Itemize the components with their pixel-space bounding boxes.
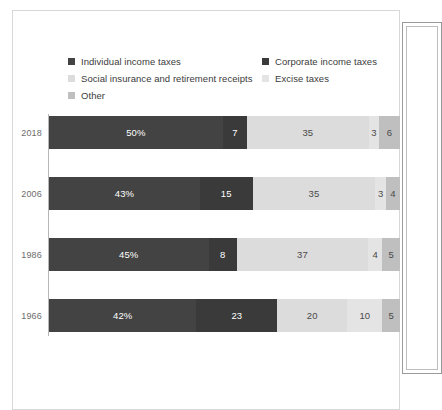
bar-segment[interactable]: 4 [386,177,400,210]
bar-segment-value-label: 3 [371,128,376,138]
bar-segment-value-label: 5 [388,311,393,321]
legend-item-label: Other [81,90,105,101]
y-axis-tick-label: 1966 [12,299,42,332]
bar-segment-value-label: 15 [221,189,232,199]
adjacent-panel [402,22,442,374]
stacked-bar[interactable]: 42%2320105 [49,299,400,332]
bar-segment[interactable]: 23 [196,299,277,332]
bar-segment[interactable]: 35 [247,116,369,149]
bar-segment-value-label: 4 [372,250,377,260]
bar-segment[interactable]: 5 [382,238,400,271]
bar-segment[interactable]: 15 [200,177,253,210]
bar-segment[interactable]: 20 [277,299,347,332]
legend-swatch-icon [68,75,75,82]
bar-segment[interactable]: 4 [368,238,382,271]
bar-segment[interactable]: 50% [49,116,223,149]
legend-item-label: Individual income taxes [81,56,181,67]
legend-item-label: Social insurance and retirement receipts [81,73,253,84]
bar-segment-value-label: 50% [126,128,145,138]
legend-item-label: Corporate income taxes [275,56,377,67]
legend-item-other[interactable]: Other [68,90,105,101]
adjacent-panel-inner [406,26,438,370]
bar-segment[interactable]: 35 [253,177,376,210]
legend-swatch-icon [262,58,269,65]
legend-item-excise-taxes[interactable]: Excise taxes [262,73,329,84]
bar-row: 1966 42%2320105 [12,299,400,332]
bar-segment[interactable]: 6 [379,116,400,149]
bar-segment-value-label: 37 [297,250,308,260]
legend-swatch-icon [68,58,75,65]
plot-area: 2018 50%73536 2006 43%153534 1986 45%837… [12,114,400,336]
bar-segment-value-label: 10 [359,311,370,321]
bar-segment[interactable]: 37 [237,238,368,271]
bar-segment[interactable]: 42% [49,299,196,332]
bar-segment-value-label: 6 [387,128,392,138]
bar-segment-value-label: 4 [390,189,395,199]
y-axis-tick-label: 1986 [12,238,42,271]
bar-segment-value-label: 45% [119,250,138,260]
bar-segment-value-label: 23 [231,311,242,321]
bar-segment-value-label: 42% [113,311,132,321]
stacked-bar[interactable]: 45%83745 [49,238,400,271]
legend-item-social-insurance-and-retirement-receipts[interactable]: Social insurance and retirement receipts [68,73,253,84]
bar-segment[interactable]: 8 [209,238,237,271]
bar-segment[interactable]: 3 [375,177,386,210]
chart-legend: Individual income taxes Corporate income… [56,56,400,108]
y-axis-tick-label: 2018 [12,116,42,149]
bar-segment[interactable]: 45% [49,238,209,271]
legend-item-corporate-income-taxes[interactable]: Corporate income taxes [262,56,377,67]
legend-swatch-icon [68,92,75,99]
bar-segment-value-label: 35 [309,189,320,199]
stacked-bar[interactable]: 43%153534 [49,177,400,210]
bar-segment-value-label: 3 [378,189,383,199]
bar-segment[interactable]: 5 [382,299,400,332]
bar-segment[interactable]: 43% [49,177,200,210]
bar-segment-value-label: 7 [232,128,237,138]
bar-row: 1986 45%83745 [12,238,400,271]
bar-segment-value-label: 8 [220,250,225,260]
bar-row: 2018 50%73536 [12,116,400,149]
bar-segment-value-label: 20 [307,311,318,321]
bar-segment-value-label: 43% [115,189,134,199]
bar-segment[interactable]: 7 [223,116,247,149]
legend-item-individual-income-taxes[interactable]: Individual income taxes [68,56,181,67]
bar-segment-value-label: 5 [388,250,393,260]
bar-segment-value-label: 35 [302,128,313,138]
y-axis-tick-label: 2006 [12,177,42,210]
bar-segment[interactable]: 3 [369,116,379,149]
stacked-bar[interactable]: 50%73536 [49,116,400,149]
legend-swatch-icon [262,75,269,82]
bar-segment[interactable]: 10 [347,299,382,332]
bar-row: 2006 43%153534 [12,177,400,210]
stacked-bar-chart: Individual income taxes Corporate income… [12,10,400,340]
legend-item-label: Excise taxes [275,73,329,84]
